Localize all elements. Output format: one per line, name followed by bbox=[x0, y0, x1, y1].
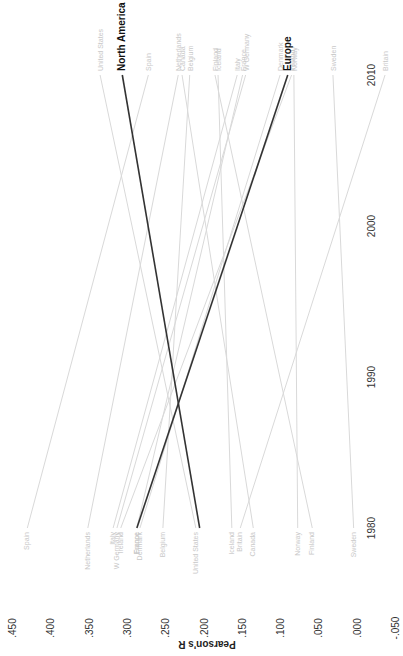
line-britain bbox=[240, 75, 385, 528]
label-2010-france: France bbox=[240, 49, 247, 71]
label-1980-canada: Canada bbox=[249, 532, 256, 557]
label-1980-norway: Norway bbox=[294, 532, 302, 556]
y-tick-label: .200 bbox=[199, 618, 210, 638]
label-2010-britain: Britain bbox=[382, 51, 389, 71]
y-tick-label: .150 bbox=[237, 618, 248, 638]
label-1980-netherlands: Netherlands bbox=[84, 532, 91, 570]
line-norway bbox=[294, 75, 298, 528]
label-1980-britain: Britain bbox=[236, 532, 243, 552]
year-axis-ticks: 1980199020002010 bbox=[366, 63, 377, 539]
x-tick-label: 2010 bbox=[366, 63, 377, 86]
y-tick-label: .100 bbox=[275, 618, 286, 638]
x-tick-label: 1980 bbox=[366, 516, 377, 539]
label-2010-europe: Europe bbox=[282, 36, 293, 71]
label-1980-ireland: Ireland bbox=[117, 532, 124, 554]
y-tick-label: .000 bbox=[352, 618, 363, 638]
label-2010-north-america: North America bbox=[116, 2, 127, 71]
x-tick-label: 2000 bbox=[366, 214, 377, 237]
line-belgium bbox=[163, 75, 190, 528]
y-tick-label: .400 bbox=[45, 618, 56, 638]
y-tick-label: -.050 bbox=[390, 616, 401, 639]
label-1980-iceland: Iceland bbox=[228, 532, 235, 555]
label-1980-finland: Finland bbox=[308, 532, 315, 555]
end-labels-2010: SpainNetherlandsItalyW GermanyIrelandFra… bbox=[97, 2, 389, 71]
label-1980-united-states: United States bbox=[192, 532, 199, 575]
line-france bbox=[137, 75, 243, 528]
pearsons-r-axis-ticks: .450.400.350.300.250.200.150.100.050.000… bbox=[7, 616, 401, 639]
y-tick-label: .450 bbox=[7, 618, 18, 638]
line-spain bbox=[27, 75, 148, 528]
label-1980-spain: Spain bbox=[23, 532, 31, 550]
label-2010-canada: Canada bbox=[179, 46, 186, 71]
y-tick-label: .300 bbox=[122, 618, 133, 638]
label-2010-belgium: Belgium bbox=[187, 46, 195, 71]
label-1980-sweden: Sweden bbox=[350, 532, 357, 557]
start-labels-1980: SpainNetherlandsItalyW GermanyIrelandFra… bbox=[23, 532, 356, 575]
y-axis-title: Pearson's R bbox=[178, 639, 236, 650]
label-2010-spain: Spain bbox=[145, 53, 153, 71]
line-sweden bbox=[333, 75, 354, 528]
line-italy bbox=[113, 75, 237, 528]
y-tick-label: .350 bbox=[84, 618, 95, 638]
slope-chart: SpainNetherlandsItalyW GermanyIrelandFra… bbox=[0, 0, 403, 656]
label-2010-sweden: Sweden bbox=[330, 46, 337, 71]
y-tick-label: .050 bbox=[313, 618, 324, 638]
line-canada bbox=[182, 75, 253, 528]
line-netherlands bbox=[88, 75, 178, 528]
label-2010-united-states: United States bbox=[97, 28, 104, 71]
line-europe bbox=[137, 75, 288, 528]
series-lines bbox=[27, 75, 385, 528]
y-tick-label: .250 bbox=[160, 618, 171, 638]
label-1980-europe: Europe bbox=[133, 532, 141, 555]
label-1980-belgium: Belgium bbox=[159, 532, 167, 557]
label-2010-finland: Finland bbox=[212, 48, 219, 71]
x-tick-label: 1990 bbox=[366, 365, 377, 388]
